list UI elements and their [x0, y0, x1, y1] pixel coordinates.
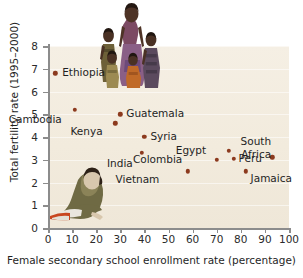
data-point-label: Syria — [150, 131, 177, 142]
data-point-label: Vietnam — [116, 174, 160, 185]
data-point-label: South Africa — [237, 135, 271, 159]
data-point-label: Jamaica — [251, 173, 292, 184]
y-axis-title: Total fertility rate (1995–2000) — [8, 14, 20, 190]
y-axis-tick-label: 8 — [22, 41, 38, 52]
gridline — [48, 92, 289, 93]
data-point-label: India — [107, 158, 133, 169]
person-reading-book-illustration — [48, 166, 120, 228]
y-axis-tick-label: 0 — [22, 223, 38, 234]
y-axis-tick — [43, 46, 48, 48]
y-axis-tick-label: 7 — [22, 64, 38, 75]
x-axis-tick-label: 20 — [84, 234, 108, 245]
y-axis-tick — [43, 160, 48, 162]
x-axis-tick-label: 60 — [181, 234, 205, 245]
x-axis-tick-label: 0 — [36, 234, 60, 245]
y-axis-tick — [43, 92, 48, 94]
y-axis-tick — [43, 137, 48, 139]
x-axis-tick-label: 30 — [108, 234, 132, 245]
x-axis-tick-label: 80 — [229, 234, 253, 245]
y-axis-tick — [43, 69, 48, 71]
data-point-label: Kenya — [70, 126, 102, 137]
y-axis-tick-label: 4 — [22, 132, 38, 143]
x-axis-tick-label: 70 — [205, 234, 229, 245]
data-point-label: Ethiopia — [62, 67, 105, 78]
data-point-label: Guatemala — [126, 108, 184, 119]
x-axis-tick-label: 10 — [60, 234, 84, 245]
gridline — [48, 46, 289, 47]
y-axis-tick-label: 3 — [22, 155, 38, 166]
figure: 012345678 0102030405060708090100 — [0, 0, 303, 278]
y-axis-tick-label: 2 — [22, 178, 38, 189]
y-axis-tick-label: 1 — [22, 200, 38, 211]
x-axis-tick-label: 50 — [157, 234, 181, 245]
x-axis-tick-label: 40 — [132, 234, 156, 245]
x-axis-tick-label: 100 — [277, 234, 301, 245]
data-point-label: Egypt — [176, 145, 206, 156]
x-axis-tick-label: 90 — [253, 234, 277, 245]
x-axis-title: Female secondary school enrollment rate … — [0, 254, 303, 266]
y-axis-tick-label: 6 — [22, 87, 38, 98]
